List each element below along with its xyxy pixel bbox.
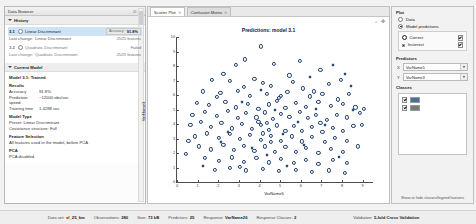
incorrect-checkbox[interactable] [458,42,463,47]
status-key: Predictors: [168,215,188,220]
x-marker-icon [402,43,405,46]
marker-label: Incorrect [408,42,455,47]
data-point-correct [217,159,221,163]
model-status-icon [18,29,23,34]
data-point-correct [329,147,333,151]
data-point-correct [316,151,320,155]
x-predictor-dropdown[interactable]: VarName5 [403,63,468,71]
pan-icon[interactable]: ✥ [381,19,385,24]
radio-model-predictions[interactable]: Model predictions [392,23,473,30]
data-point-correct [240,122,244,126]
data-point-incorrect [309,75,312,78]
y-tick-label: 9 [173,50,177,54]
class-checkbox[interactable] [402,105,407,110]
accuracy-label: Accuracy: [109,29,125,33]
model-type-line: Preset: Linear Discriminant [9,120,141,125]
marker-label: Correct [410,35,456,40]
data-point-correct [279,94,283,98]
history-scrollbar-thumb[interactable] [139,11,143,25]
y-tick-label: 4 [173,122,177,126]
zoom-in-icon[interactable]: ⌕ [375,19,378,24]
y-tick-label: 6 [173,93,177,97]
correct-checkbox[interactable] [458,35,463,40]
data-point-correct [279,139,283,143]
data-point-correct [310,135,314,139]
data-point-incorrect [226,130,229,133]
data-point-correct [279,157,283,161]
data-point-correct [318,68,322,72]
data-point-correct [341,149,345,153]
data-point-incorrect [201,164,204,167]
data-point-correct [304,105,308,109]
data-point-incorrect [352,109,355,112]
y-tick-label: 7 [173,79,177,83]
data-point-correct [217,136,221,140]
marker-row-correct[interactable]: Correct [402,34,463,41]
marker-row-incorrect[interactable]: Incorrect [402,41,463,48]
x-tick-label: 5 [279,182,281,188]
history-item-3-2[interactable]: 3.2 Quadratic Discriminant Failed Last c… [8,45,142,58]
data-point-correct [209,125,213,129]
data-point-correct [324,118,328,122]
feature-count: 25/25 features [117,53,141,57]
data-point-correct [272,62,276,66]
data-point-correct [232,148,236,152]
data-point-correct [298,59,302,63]
scatter-plot: ⌕ ✥ Predictions: model 3.1 0123456789012… [148,17,389,203]
current-model-section-header[interactable]: Current Model [5,63,145,72]
status-bar: Data set: xl_25_km Observations: 280 Siz… [0,210,476,224]
data-point-correct [298,110,302,114]
tab-scatter-plot[interactable]: Scatter Plot ✕ [150,7,185,16]
x-axis-label: VarName5 [176,191,372,196]
data-point-incorrect [350,84,353,87]
data-point-correct [258,44,262,48]
data-point-correct [345,139,349,143]
data-point-correct [195,101,199,105]
y-axis-label: VarName3 [141,102,146,122]
tab-confusion-matrix[interactable]: Confusion Matrix ✕ [187,7,231,16]
data-point-correct [263,110,267,114]
data-point-correct [256,107,260,111]
data-point-correct [310,170,314,174]
status-key: Data set: [48,215,65,220]
close-icon[interactable]: ✕ [178,10,181,15]
feature-count: 25/25 features [117,37,141,41]
history-item-3-1[interactable]: 3.1 Linear Discriminant Accuracy: 91.8% … [8,27,142,42]
radio-data[interactable]: Data [392,16,473,23]
data-point-correct [310,125,314,129]
data-point-correct [261,167,265,171]
data-point-correct [322,140,326,144]
data-point-correct [314,112,318,116]
data-point-incorrect [240,100,243,103]
chevron-down-icon[interactable] [460,64,467,70]
data-point-correct [331,126,335,130]
y-predictor-dropdown[interactable]: VarName3 [403,73,468,81]
data-point-incorrect [265,154,268,157]
pca-header: PCA [9,148,141,153]
chart-tabbar: Scatter Plot ✕ Confusion Matrix ✕ [148,7,389,17]
data-point-correct [219,121,223,125]
data-point-correct [335,113,339,117]
history-section-header[interactable]: History [5,16,145,25]
circle-marker-icon [402,35,407,40]
data-point-correct [207,103,211,107]
data-point-correct [205,131,209,135]
data-point-correct [318,121,322,125]
data-point-correct [291,161,295,165]
class-checkbox[interactable] [402,97,407,102]
class-row[interactable] [402,96,463,104]
data-point-correct [285,90,289,94]
data-point-incorrect [274,109,277,112]
data-point-correct [300,129,304,133]
class-row[interactable] [402,104,463,112]
data-point-incorrect [259,88,262,91]
data-point-correct [269,84,273,88]
data-point-correct [192,134,196,138]
close-icon[interactable]: ✕ [224,10,227,15]
model-name: Linear Discriminant [25,29,104,34]
data-point-incorrect [344,72,347,75]
data-point-incorrect [220,141,223,144]
chevron-down-icon[interactable] [460,74,467,80]
data-point-correct [215,114,219,118]
y-tick-mark [177,81,179,82]
